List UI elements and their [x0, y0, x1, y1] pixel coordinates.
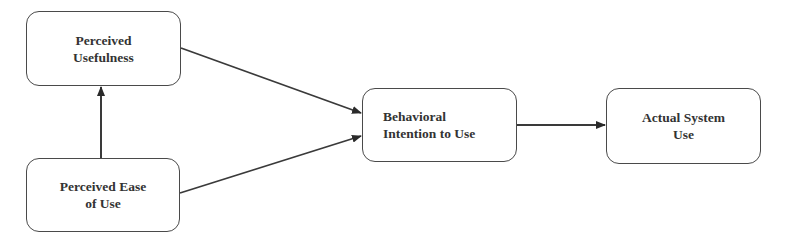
node-label: Actual System Use: [642, 109, 725, 143]
node-label: Perceived Ease of Use: [60, 178, 146, 212]
node-perceived-ease-of-use: Perceived Ease of Use: [26, 158, 180, 232]
node-label: Perceived Usefulness: [73, 32, 134, 66]
node-perceived-usefulness: Perceived Usefulness: [26, 11, 181, 86]
arrow-pu-to-bi: [181, 48, 361, 113]
node-label: Behavioral Intention to Use: [383, 108, 475, 142]
node-behavioral-intention: Behavioral Intention to Use: [362, 88, 517, 162]
node-actual-system-use: Actual System Use: [606, 88, 761, 164]
arrow-peou-to-bi: [180, 136, 361, 193]
